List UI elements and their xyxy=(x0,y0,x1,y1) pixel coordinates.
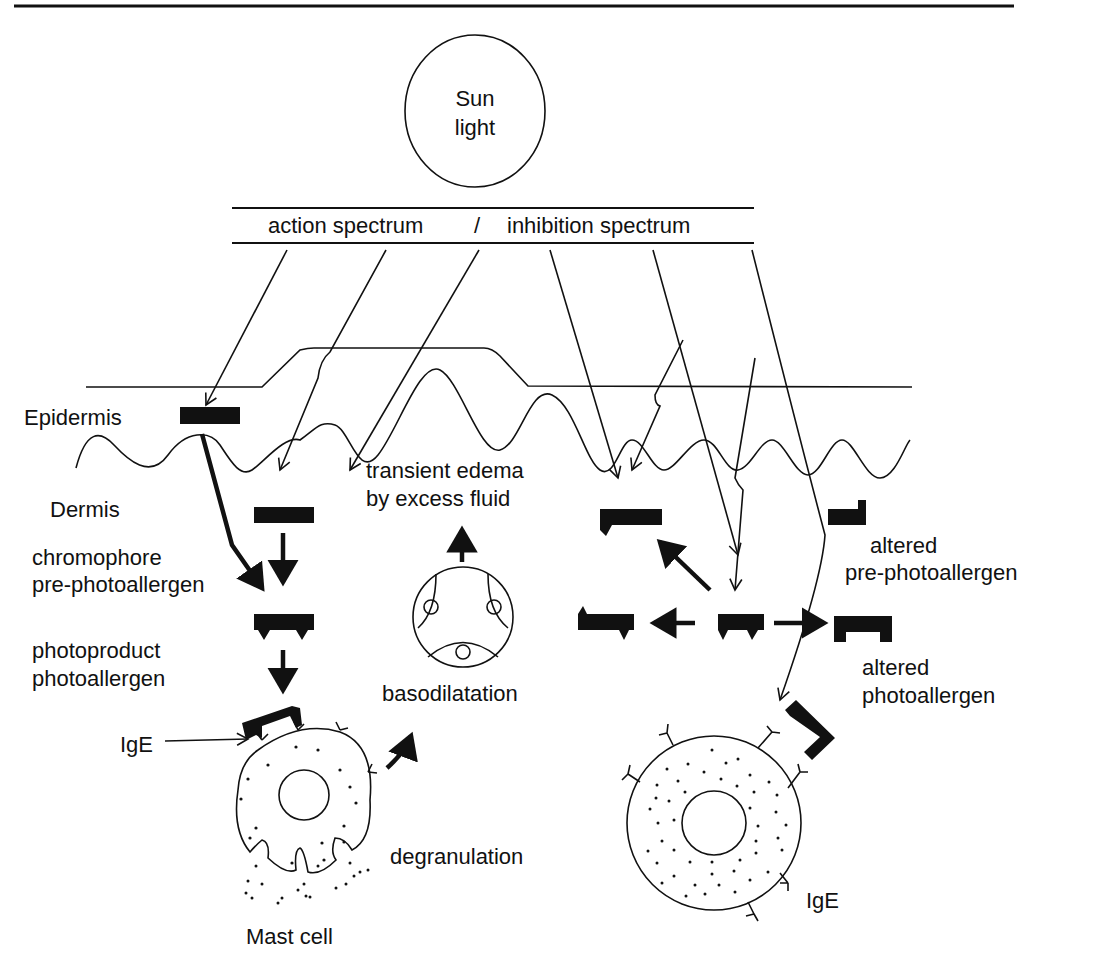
bound-photoallergen xyxy=(242,706,302,740)
altered-pre-label-line2: pre-photoallergen xyxy=(845,560,1017,585)
edema-label-line1: transient edema xyxy=(366,458,525,483)
ige-label-right: IgE xyxy=(806,888,839,913)
degranulation-label: degranulation xyxy=(390,844,523,869)
altered-photoallergen-block xyxy=(834,616,892,642)
photoproduct-label-line2: photoallergen xyxy=(32,666,165,691)
inhibited-chromophore-block xyxy=(600,509,662,536)
blood-vessel xyxy=(413,567,513,667)
mast-cell-right xyxy=(622,700,835,921)
inhibition-spectrum-label: inhibition spectrum xyxy=(507,213,690,238)
sun-label-line2: light xyxy=(455,115,495,140)
spectrum-separator: / xyxy=(474,213,481,238)
mast-cell-label: Mast cell xyxy=(246,924,333,949)
arrow-mastcell-to-basodilatation xyxy=(387,736,411,768)
photoproduct-label-line1: photoproduct xyxy=(32,638,160,663)
sun-label-line1: Sun xyxy=(455,86,494,111)
altered-chromophore-block xyxy=(578,606,634,640)
ige-label-left: IgE xyxy=(120,732,153,757)
altered-pre-label-line1: altered xyxy=(870,533,937,558)
edema-label-line2: by excess fluid xyxy=(366,486,510,511)
dermis-chromophore-block xyxy=(254,507,314,523)
altered-pre-photoallergen-block xyxy=(828,500,866,525)
thick-arrow-epidermis-to-photoproduct xyxy=(202,434,262,588)
chromophore-label-line1: chromophore xyxy=(32,545,162,570)
skin-surface-line xyxy=(86,348,912,387)
ige-pointer-arrow xyxy=(165,739,248,741)
mast-cell xyxy=(237,722,378,905)
action-spectrum-rays xyxy=(206,250,479,470)
altered-photo-label-line1: altered xyxy=(862,655,929,680)
sun-light: Sun light xyxy=(405,35,545,187)
photoproduct-block xyxy=(254,614,314,640)
inhibition-spectrum-rays xyxy=(550,250,825,700)
photoproduct-block-right xyxy=(718,614,764,640)
photoallergy-diagram: Sun light action spectrum / inhibition s… xyxy=(0,0,1098,972)
spectrum-band: action spectrum / inhibition spectrum xyxy=(232,208,754,243)
chromophore-label-line2: pre-photoallergen xyxy=(32,572,204,597)
dermis-label: Dermis xyxy=(50,497,120,522)
altered-photo-label-line2: photoallergen xyxy=(862,683,995,708)
action-spectrum-label: action spectrum xyxy=(268,213,423,238)
epidermis-chromophore-block xyxy=(180,407,240,424)
basodilatation-label: basodilatation xyxy=(382,681,518,706)
arrow-to-inhibited-chromophore xyxy=(660,542,710,590)
epidermis-label: Epidermis xyxy=(24,405,122,430)
